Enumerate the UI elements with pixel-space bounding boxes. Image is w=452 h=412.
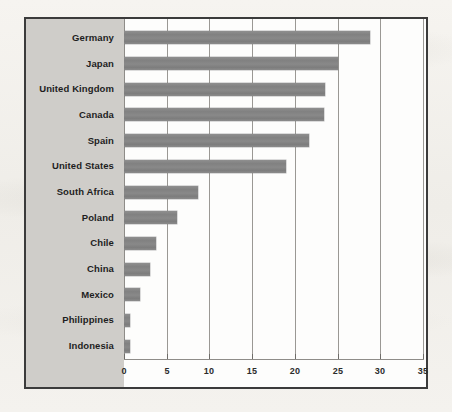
category-label-germany: Germany — [72, 33, 114, 43]
tick-mark-15 — [252, 354, 253, 359]
bar-poland — [124, 211, 177, 224]
tick-mark-20 — [295, 354, 296, 359]
chart-frame: 05101520253035 GermanyJapanUnited Kingdo… — [24, 17, 428, 389]
tick-label-30: 30 — [368, 366, 392, 376]
tick-mark-0 — [124, 354, 125, 359]
tick-label-0: 0 — [112, 366, 136, 376]
bar-south-africa — [124, 186, 198, 199]
bar-canada — [124, 108, 324, 121]
category-label-united-kingdom: United Kingdom — [39, 84, 114, 94]
tick-label-15: 15 — [240, 366, 264, 376]
tick-label-10: 10 — [197, 366, 221, 376]
tick-mark-10 — [209, 354, 210, 359]
bar-germany — [124, 31, 370, 44]
tick-mark-5 — [167, 354, 168, 359]
bar-chile — [124, 237, 156, 250]
category-label-panel — [26, 19, 124, 387]
category-label-spain: Spain — [88, 136, 114, 146]
category-label-united-states: United States — [52, 161, 114, 171]
gridline-35 — [423, 19, 424, 359]
gridline-20 — [295, 19, 296, 359]
category-label-canada: Canada — [79, 110, 114, 120]
category-label-indonesia: Indonesia — [69, 341, 114, 351]
category-label-mexico: Mexico — [81, 290, 114, 300]
x-axis-line — [124, 359, 424, 360]
bar-united-kingdom — [124, 83, 325, 96]
gridline-15 — [252, 19, 253, 359]
category-label-poland: Poland — [82, 213, 114, 223]
bar-china — [124, 263, 150, 276]
tick-label-35: 35 — [411, 366, 435, 376]
bar-japan — [124, 57, 338, 70]
gridline-25 — [338, 19, 339, 359]
tick-label-5: 5 — [155, 366, 179, 376]
category-label-chile: Chile — [90, 238, 114, 248]
bar-united-states — [124, 160, 286, 173]
bar-indonesia — [124, 340, 130, 353]
category-label-philippines: Philippines — [62, 315, 114, 325]
bar-mexico — [124, 288, 140, 301]
tick-mark-35 — [423, 354, 424, 359]
tick-mark-30 — [380, 354, 381, 359]
tick-label-25: 25 — [326, 366, 350, 376]
bar-spain — [124, 134, 309, 147]
category-label-china: China — [87, 264, 114, 274]
tick-mark-25 — [338, 354, 339, 359]
plot-area — [124, 19, 426, 387]
category-label-japan: Japan — [86, 59, 114, 69]
gridline-30 — [380, 19, 381, 359]
tick-label-20: 20 — [283, 366, 307, 376]
category-label-south-africa: South Africa — [57, 187, 114, 197]
plot-clip — [124, 19, 426, 387]
bar-philippines — [124, 314, 130, 327]
gridline-10 — [209, 19, 210, 359]
